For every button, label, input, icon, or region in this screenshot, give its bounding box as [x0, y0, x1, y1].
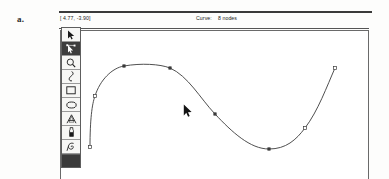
- dropper-icon: [68, 127, 75, 138]
- spiral-icon: [66, 142, 77, 152]
- selector-tool[interactable]: [62, 28, 80, 42]
- node-edit-icon: [66, 44, 76, 54]
- arrow-pointer-icon: [67, 30, 76, 40]
- ellipse-icon: [66, 101, 77, 109]
- dropper-tool[interactable]: [62, 126, 80, 140]
- object-detail-label: 8 nodes: [218, 15, 237, 21]
- spiral-tool[interactable]: [62, 140, 80, 154]
- cursor-coordinates-readout: [ 4.77, -3.90]: [60, 15, 91, 21]
- selected-object-status: Curve:8 nodes: [196, 15, 237, 21]
- status-bar-top-rule: [59, 11, 372, 13]
- mouse-cursor: [183, 104, 193, 118]
- status-bar-bottom-rule: [59, 28, 369, 29]
- drawing-canvas[interactable]: [81, 31, 368, 179]
- pen-nib-icon: [67, 71, 75, 82]
- fill-color-swatch[interactable]: [62, 154, 80, 167]
- text-tool[interactable]: [62, 112, 80, 126]
- rectangle-icon: [66, 86, 76, 95]
- rectangle-tool[interactable]: [62, 84, 80, 98]
- letter-a-icon: [66, 114, 77, 124]
- node-edit-tool[interactable]: [62, 42, 80, 56]
- tool-palette: [61, 27, 81, 168]
- figure-label: a.: [17, 14, 24, 24]
- zoom-tool[interactable]: [62, 56, 80, 70]
- ellipse-tool[interactable]: [62, 98, 80, 112]
- magnifier-icon: [66, 58, 76, 68]
- object-kind-label: Curve:: [196, 15, 212, 21]
- screenshot-root: a. [ 4.77, -3.90] Curve:8 nodes: [0, 0, 389, 179]
- pen-tool[interactable]: [62, 70, 80, 84]
